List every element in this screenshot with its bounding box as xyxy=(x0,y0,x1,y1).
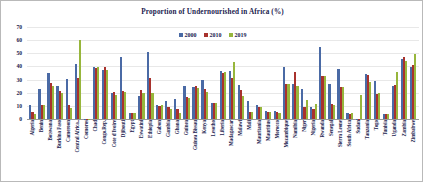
bar-group xyxy=(246,27,255,119)
y-axis-tick-label: 0 xyxy=(19,116,22,122)
x-axis-label-cell: Morocco xyxy=(273,120,282,180)
bar-2019 xyxy=(188,98,190,119)
x-axis-label-cell: Namibia xyxy=(291,120,300,180)
x-axis-label: Zambia xyxy=(402,120,407,136)
x-axis-label-cell: Sudan xyxy=(354,120,363,180)
x-axis-label: Tanzania xyxy=(365,120,370,139)
bar-group xyxy=(137,27,146,119)
bar-group xyxy=(300,27,309,119)
x-axis-label: South Africa xyxy=(347,120,352,146)
x-axis-label: Central Africa.. xyxy=(75,120,80,153)
y-axis-tick-label: 20 xyxy=(16,90,22,96)
x-axis-label-cell: Guinea xyxy=(182,120,191,180)
bar-group xyxy=(218,27,227,119)
bar-group xyxy=(273,27,282,119)
bar-2019 xyxy=(378,93,380,119)
bar-2019 xyxy=(124,92,126,119)
x-axis-label: Mauritania xyxy=(257,120,262,144)
x-axis-label-cell: Gambia xyxy=(164,120,173,180)
bar-group xyxy=(46,27,55,119)
bar-2019 xyxy=(396,72,398,119)
bar-group xyxy=(291,27,300,119)
x-axis-label-cell: Togo xyxy=(372,120,381,180)
bar-group xyxy=(64,27,73,119)
x-axis-label-cell: Mauritania xyxy=(255,120,264,180)
bar-group xyxy=(155,27,164,119)
chart-figure: Proportion of Undernourished in Africa (… xyxy=(0,0,423,182)
x-axis-label: Cameroon xyxy=(66,120,71,142)
x-axis-label: Mozambique xyxy=(284,120,289,148)
bar-2019 xyxy=(287,84,289,119)
bar-2019 xyxy=(242,96,244,119)
x-axis-label: Tunisia xyxy=(383,120,388,135)
bar-2019 xyxy=(70,108,72,119)
x-axis-label-cell: Comoros xyxy=(82,120,91,180)
y-axis-tick-label: 50 xyxy=(16,50,22,56)
x-axis-label-cell: Tunisia xyxy=(381,120,390,180)
x-axis-label-cell: Guinea Bissau xyxy=(191,120,200,180)
x-axis-label: Rwanda xyxy=(320,120,325,138)
bar-2019 xyxy=(333,105,335,119)
bar-group xyxy=(309,27,318,119)
x-axis-label-cell: Zimbabwe xyxy=(409,120,418,180)
bar-group xyxy=(119,27,128,119)
y-axis-tick-label: 70 xyxy=(16,24,22,30)
bar-2019 xyxy=(43,105,45,119)
bar-2019 xyxy=(197,88,199,119)
x-axis-label: Niger xyxy=(302,120,307,132)
bar-2019 xyxy=(251,112,253,119)
bar-group xyxy=(327,27,336,119)
x-axis-label-cell: Rwanda xyxy=(318,120,327,180)
bar-2019 xyxy=(224,72,226,119)
bar-group xyxy=(173,27,182,119)
x-axis-label: Djibouti xyxy=(121,120,126,137)
x-axis-label-cell: Liberia xyxy=(218,120,227,180)
bar-group xyxy=(82,27,91,119)
bar-2019 xyxy=(351,113,353,119)
bar-group xyxy=(28,27,37,119)
bar-group xyxy=(191,27,200,119)
bar-group xyxy=(236,27,245,119)
x-axis-label-cell: Senegal xyxy=(327,120,336,180)
x-axis-label-cell: Kenya xyxy=(200,120,209,180)
x-axis-label: Cote d'Ivoire xyxy=(112,120,117,147)
x-axis-label-cell: Algeria xyxy=(28,120,37,180)
x-axis-label-cell: Tanzania xyxy=(363,120,372,180)
bar-2019 xyxy=(342,87,344,119)
bar-2019 xyxy=(296,86,298,120)
bar-group xyxy=(282,27,291,119)
x-axis-label-cell: Chad xyxy=(91,120,100,180)
bar-2019 xyxy=(97,67,99,119)
bar-2019 xyxy=(405,61,407,119)
y-axis-ticks: 010203040506070 xyxy=(1,27,25,119)
x-axis-label-cell: Mozambique xyxy=(282,120,291,180)
y-axis-tick-label: 30 xyxy=(16,77,22,83)
x-axis-label-cell: Central Africa.. xyxy=(73,120,82,180)
bar-group xyxy=(146,27,155,119)
x-axis-label: Congo.Rep. xyxy=(102,120,107,144)
bar-2019 xyxy=(52,86,54,120)
x-axis-label-cell: Zambia xyxy=(400,120,409,180)
x-axis-label-cell: Uganda xyxy=(391,120,400,180)
bar-2019 xyxy=(324,76,326,119)
x-axis-label-cell: South Africa xyxy=(345,120,354,180)
bar-2019 xyxy=(161,105,163,119)
y-axis-tick-label: 40 xyxy=(16,63,22,69)
x-axis-label-cell: Botswana xyxy=(46,120,55,180)
bar-group xyxy=(381,27,390,119)
x-axis-label: Nigeria xyxy=(311,120,316,135)
x-axis-label-cell: Malawi xyxy=(236,120,245,180)
bar-group xyxy=(345,27,354,119)
x-axis-label-cell: Nigeria xyxy=(309,120,318,180)
bar-group xyxy=(264,27,273,119)
x-axis-label-cell: Gabon xyxy=(155,120,164,180)
bar-2019 xyxy=(206,92,208,119)
bar-2019 xyxy=(315,104,317,119)
x-axis-label: Ghana xyxy=(175,120,180,134)
x-axis-label: Burkina Faso xyxy=(57,120,62,148)
bar-group xyxy=(391,27,400,119)
bar-2019 xyxy=(387,114,389,119)
x-axis-labels: AlgeriaBeninBotswanaBurkina FasoCameroon… xyxy=(27,120,419,180)
x-axis-label: Namibia xyxy=(293,120,298,138)
bar-2019 xyxy=(151,93,153,119)
